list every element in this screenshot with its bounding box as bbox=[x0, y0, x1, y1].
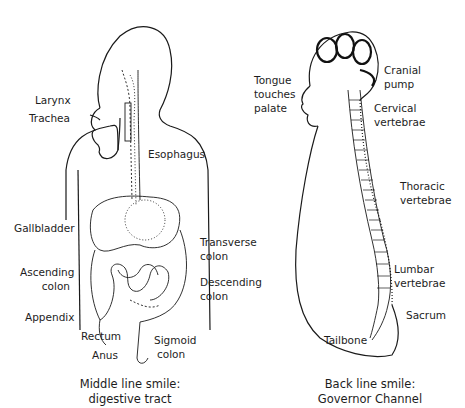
label-cervical-vertebrae-2: vertebrae bbox=[374, 116, 425, 129]
label-trachea: Trachea bbox=[29, 112, 70, 125]
label-tongue-3: palate bbox=[254, 102, 287, 115]
label-larynx: Larynx bbox=[35, 94, 71, 107]
caption-back-line-1: Back line smile: bbox=[300, 377, 440, 392]
label-transverse-colon-1: Transverse bbox=[200, 236, 257, 249]
label-cervical-vertebrae-1: Cervical bbox=[374, 102, 416, 115]
caption-back-line-2: Governor Channel bbox=[300, 392, 440, 407]
label-rectum: Rectum bbox=[81, 330, 121, 343]
label-lumbar-vertebrae-2: vertebrae bbox=[394, 277, 445, 290]
label-ascending-colon-1: Ascending bbox=[20, 266, 70, 279]
label-descending-colon-2: colon bbox=[200, 290, 228, 303]
label-appendix: Appendix bbox=[25, 311, 74, 324]
label-transverse-colon-2: colon bbox=[200, 250, 228, 263]
label-ascending-colon-2: colon bbox=[20, 280, 70, 293]
label-tongue-2: touches bbox=[254, 88, 296, 101]
caption-middle-line-2: digestive tract bbox=[60, 392, 200, 407]
label-cranial-pump-2: pump bbox=[384, 78, 414, 91]
label-anus: Anus bbox=[92, 349, 118, 362]
side-body-outline bbox=[296, 32, 398, 357]
caption-middle-line-1: Middle line smile: bbox=[60, 377, 200, 392]
label-sigmoid-colon-2: colon bbox=[157, 348, 185, 361]
label-gallbladder: Gallbladder bbox=[14, 222, 75, 235]
anatomy-illustration bbox=[0, 0, 465, 408]
label-thoracic-vertebrae-2: vertebrae bbox=[400, 194, 451, 207]
label-tongue-1: Tongue bbox=[254, 74, 292, 87]
label-descending-colon-1: Descending bbox=[200, 276, 262, 289]
digestive-tract bbox=[90, 70, 186, 363]
label-esophagus: Esophagus bbox=[148, 148, 205, 161]
label-sigmoid-colon-1: Sigmoid bbox=[154, 334, 196, 347]
label-sacrum: Sacrum bbox=[406, 309, 446, 322]
label-thoracic-vertebrae-1: Thoracic bbox=[400, 180, 445, 193]
label-tailbone: Tailbone bbox=[324, 334, 367, 347]
label-lumbar-vertebrae-1: Lumbar bbox=[394, 263, 434, 276]
label-cranial-pump-1: Cranial bbox=[384, 64, 421, 77]
